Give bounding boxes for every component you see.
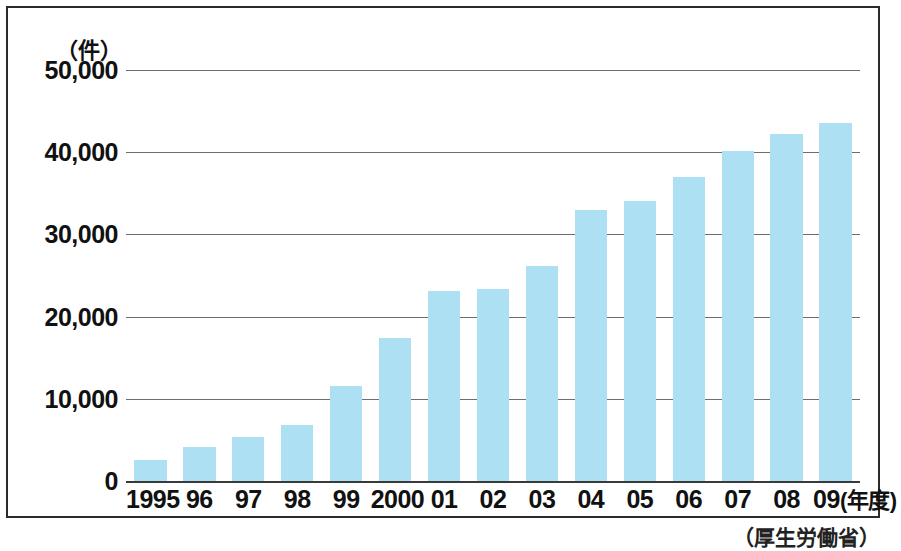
y-tick-label: 20,000	[45, 305, 118, 330]
bar	[526, 266, 558, 481]
bar-slot	[722, 70, 754, 481]
x-tick-label: 2000	[371, 487, 420, 512]
x-tick-label: 01	[420, 487, 469, 512]
x-tick-label: 03	[517, 487, 566, 512]
bar	[575, 210, 607, 481]
x-tick-label: 06	[664, 487, 713, 512]
bar-slot	[819, 70, 851, 481]
bar	[134, 460, 166, 481]
bar	[770, 134, 802, 481]
y-tick-label: 50,000	[45, 58, 118, 83]
x-tick-label: 96	[175, 487, 224, 512]
bar-slot	[770, 70, 802, 481]
y-tick-label: 0	[105, 469, 118, 494]
bar-slot	[624, 70, 656, 481]
y-tick-label: 10,000	[45, 387, 118, 412]
bar-slot	[428, 70, 460, 481]
bar-slot	[477, 70, 509, 481]
figure-frame: （件） 010,00020,00030,00040,00050,000 1995…	[6, 6, 880, 518]
bar-slot	[330, 70, 362, 481]
y-tick-label: 40,000	[45, 140, 118, 165]
x-tick-label: 09(年度)	[813, 487, 901, 512]
x-axis-suffix-label: (年度)	[840, 488, 897, 513]
bar	[819, 123, 851, 481]
x-tick-label: 98	[273, 487, 322, 512]
bar-slot	[379, 70, 411, 481]
bar-slot	[526, 70, 558, 481]
bar-slot	[281, 70, 313, 481]
bar-slot	[134, 70, 166, 481]
bar	[281, 425, 313, 481]
bar	[183, 447, 215, 481]
y-axis-tick-labels: 010,00020,00030,00040,00050,000	[8, 70, 118, 481]
x-tick-label: 07	[713, 487, 762, 512]
bar-series	[126, 70, 860, 481]
y-tick-label: 30,000	[45, 222, 118, 247]
bar	[330, 386, 362, 481]
axis-baseline	[126, 481, 860, 483]
bar	[428, 291, 460, 481]
bar-slot	[232, 70, 264, 481]
x-tick-label: 02	[469, 487, 518, 512]
bar-slot	[183, 70, 215, 481]
x-tick-label: 1995	[126, 487, 175, 512]
x-tick-label: 08	[762, 487, 811, 512]
bar-slot	[673, 70, 705, 481]
bar	[379, 338, 411, 481]
plot-area	[126, 70, 860, 481]
bar	[232, 437, 264, 481]
bar-slot	[575, 70, 607, 481]
bar	[477, 289, 509, 481]
source-note: （厚生労働省）	[733, 521, 880, 551]
x-tick-label: 97	[224, 487, 273, 512]
x-axis-tick-labels: 1995969798992000010203040506070809(年度)	[126, 487, 860, 523]
x-tick-label: 99	[322, 487, 371, 512]
bar	[624, 201, 656, 481]
bar	[673, 177, 705, 481]
bar	[722, 151, 754, 481]
x-tick-label: 04	[566, 487, 615, 512]
x-tick-label: 05	[615, 487, 664, 512]
